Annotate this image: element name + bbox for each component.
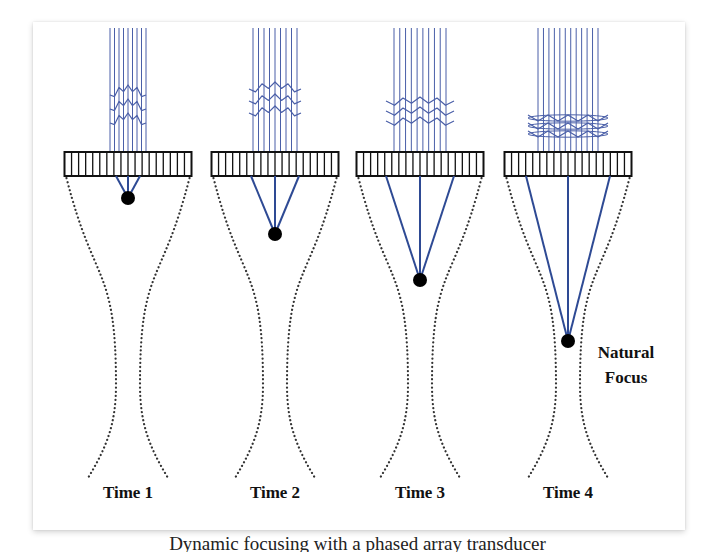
transducer-array (65, 152, 192, 176)
wavefront-lines (528, 28, 608, 152)
focus-rays (526, 176, 610, 341)
transducer-array (505, 152, 632, 176)
wavefront-lines (249, 28, 301, 152)
natural-focus-label: Natural Focus (586, 340, 666, 390)
panel-2 (212, 28, 339, 478)
focal-point-dot (561, 334, 575, 348)
panel-label-time-1: Time 1 (103, 483, 153, 503)
focal-point-dot (413, 273, 427, 287)
panel-1 (65, 28, 192, 478)
panel-label-time-4: Time 4 (543, 483, 593, 503)
focus-rays (251, 176, 299, 234)
panel-3 (357, 28, 484, 478)
focus-rays (386, 176, 454, 280)
panel-4 (505, 28, 632, 478)
beam-boundary (67, 178, 190, 478)
panel-label-time-2: Time 2 (250, 483, 300, 503)
figure-caption: Dynamic focusing with a phased array tra… (0, 532, 715, 552)
natural-focus-line-2: Focus (586, 365, 666, 390)
transducer-array (357, 152, 484, 176)
panel-label-time-3: Time 3 (395, 483, 445, 503)
wavefront-lines (386, 28, 454, 152)
natural-focus-line-1: Natural (586, 340, 666, 365)
transducer-array (212, 152, 339, 176)
focal-point-dot (268, 227, 282, 241)
wavefront-lines (110, 28, 146, 152)
focal-point-dot (121, 191, 135, 205)
